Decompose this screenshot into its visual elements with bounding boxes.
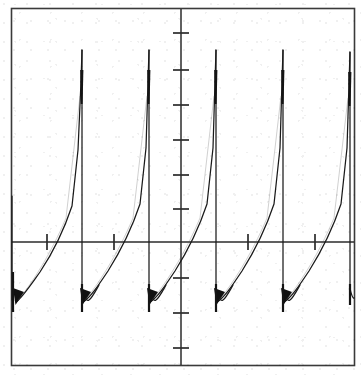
- waveform-plot: [0, 0, 361, 377]
- oscilloscope-figure: [0, 0, 361, 377]
